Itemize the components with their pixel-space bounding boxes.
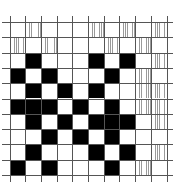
empty-cell xyxy=(25,160,41,175)
hatched-cell xyxy=(151,99,167,114)
empty-cell xyxy=(151,129,167,144)
empty-cell xyxy=(104,83,120,98)
hatched-cell xyxy=(119,22,135,37)
empty-cell xyxy=(10,144,26,159)
empty-cell xyxy=(57,37,73,52)
empty-cell xyxy=(57,68,73,83)
empty-cell xyxy=(72,37,88,52)
empty-cell xyxy=(41,53,57,68)
hatched-cell xyxy=(41,37,57,52)
grid-line-horizontal xyxy=(2,129,173,130)
filled-cell xyxy=(104,129,120,144)
hatched-cell xyxy=(104,37,120,52)
hatched-cell xyxy=(135,83,151,98)
empty-cell xyxy=(88,160,104,175)
hatched-cell xyxy=(151,53,167,68)
empty-cell xyxy=(72,83,88,98)
filled-cell xyxy=(88,83,104,98)
filled-cell xyxy=(10,68,26,83)
grid-line-horizontal xyxy=(2,37,173,38)
filled-cell xyxy=(104,99,120,114)
hatched-cell xyxy=(151,144,167,159)
filled-cell xyxy=(25,114,41,129)
filled-cell xyxy=(41,68,57,83)
empty-cell xyxy=(72,114,88,129)
grid-line-horizontal xyxy=(2,175,173,176)
filled-cell xyxy=(41,99,57,114)
hatched-cell xyxy=(135,160,151,175)
empty-cell xyxy=(88,68,104,83)
empty-cell xyxy=(57,99,73,114)
filled-cell xyxy=(119,114,135,129)
empty-cell xyxy=(135,129,151,144)
empty-cell xyxy=(10,22,26,37)
empty-cell xyxy=(72,144,88,159)
hatched-cell xyxy=(151,22,167,37)
empty-cell xyxy=(119,37,135,52)
grid-line-horizontal xyxy=(2,114,173,115)
empty-cell xyxy=(10,53,26,68)
hatched-cell xyxy=(10,37,26,52)
empty-cell xyxy=(41,22,57,37)
empty-cell xyxy=(25,37,41,52)
empty-cell xyxy=(72,160,88,175)
filled-cell xyxy=(25,53,41,68)
empty-cell xyxy=(135,114,151,129)
empty-cell xyxy=(104,53,120,68)
empty-cell xyxy=(10,114,26,129)
grid-line-horizontal xyxy=(2,68,173,69)
empty-cell xyxy=(10,129,26,144)
empty-cell xyxy=(57,160,73,175)
empty-cell xyxy=(104,22,120,37)
empty-cell xyxy=(57,22,73,37)
filled-cell xyxy=(88,114,104,129)
filled-cell xyxy=(57,114,73,129)
empty-cell xyxy=(72,68,88,83)
filled-cell xyxy=(88,144,104,159)
filled-cell xyxy=(41,129,57,144)
empty-cell xyxy=(41,83,57,98)
grid-line-horizontal xyxy=(2,83,173,84)
empty-cell xyxy=(10,83,26,98)
filled-cell xyxy=(57,83,73,98)
empty-cell xyxy=(119,99,135,114)
filled-cell xyxy=(119,53,135,68)
hatched-cell xyxy=(25,22,41,37)
empty-cell xyxy=(151,160,167,175)
empty-cell xyxy=(57,144,73,159)
filled-cell xyxy=(119,144,135,159)
empty-cell xyxy=(41,144,57,159)
grid-line-horizontal xyxy=(2,53,173,54)
empty-cell xyxy=(135,22,151,37)
grid-line-horizontal xyxy=(2,99,173,100)
filled-cell xyxy=(25,83,41,98)
grid-line-horizontal xyxy=(2,22,173,23)
empty-cell xyxy=(135,53,151,68)
empty-cell xyxy=(25,68,41,83)
empty-cell xyxy=(119,129,135,144)
filled-cell xyxy=(25,99,41,114)
hatched-cell xyxy=(151,114,167,129)
grid-line-horizontal xyxy=(2,160,173,161)
empty-cell xyxy=(119,68,135,83)
filled-cell xyxy=(104,114,120,129)
hatched-cell xyxy=(151,83,167,98)
empty-cell xyxy=(25,129,41,144)
hatched-cell xyxy=(135,37,151,52)
filled-cell xyxy=(10,160,26,175)
filled-cell xyxy=(10,99,26,114)
filled-cell xyxy=(88,53,104,68)
empty-cell xyxy=(72,22,88,37)
empty-cell xyxy=(119,160,135,175)
empty-cell xyxy=(57,53,73,68)
hatched-cell xyxy=(88,22,104,37)
empty-cell xyxy=(151,37,167,52)
empty-cell xyxy=(41,114,57,129)
grid-line-horizontal xyxy=(2,144,173,145)
filled-cell xyxy=(72,129,88,144)
hatched-cell xyxy=(135,68,151,83)
empty-cell xyxy=(135,144,151,159)
hatched-cell xyxy=(135,99,151,114)
empty-cell xyxy=(88,99,104,114)
filled-cell xyxy=(104,160,120,175)
